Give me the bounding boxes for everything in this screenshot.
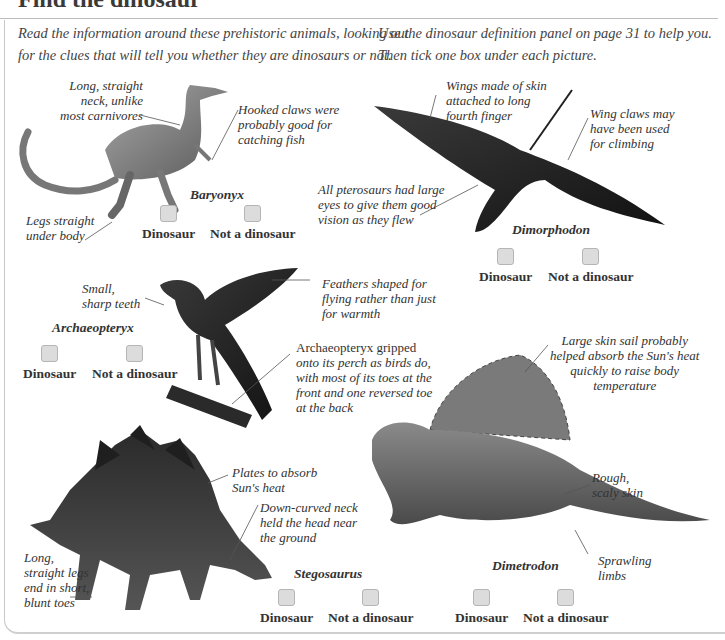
note-line: Small,: [82, 281, 140, 296]
note-line: helped absorb the Sun's heat: [550, 348, 699, 363]
dimorphodon-note-eyes: All pterosaurs had large eyes to give th…: [318, 182, 445, 227]
note-line: temperature: [550, 378, 699, 393]
choice-label: Not a dinosaur: [328, 610, 414, 625]
note-line: Hooked claws were: [238, 102, 339, 117]
note-line: front and one reversed toe: [296, 385, 432, 400]
note-line: neck, unlike: [60, 93, 143, 108]
note-line: at the back: [296, 400, 432, 415]
note-line: vision as they flew: [318, 212, 445, 227]
baryonyx-choice-not-dinosaur[interactable]: Not a dinosaur: [210, 205, 296, 242]
dimorphodon-choice-not-dinosaur[interactable]: Not a dinosaur: [548, 248, 634, 285]
dimetrodon-dinosaur-checkbox[interactable]: [473, 589, 490, 606]
note-line: under body: [26, 228, 94, 243]
note-line: end in short,: [24, 580, 89, 595]
note-line: attached to long: [446, 93, 547, 108]
note-line: flying rather than just: [322, 291, 436, 306]
note-line: Rough,: [592, 470, 643, 485]
choice-label: Dinosaur: [142, 226, 195, 241]
note-line: eyes to give them good: [318, 197, 445, 212]
baryonyx-note-claws: Hooked claws were probably good for catc…: [238, 102, 339, 147]
dimorphodon-note-wings: Wings made of skin attached to long four…: [446, 78, 547, 123]
baryonyx-name: Baryonyx: [190, 187, 244, 203]
dimorphodon-dinosaur-checkbox[interactable]: [497, 248, 514, 265]
note-line: Sun's heat: [232, 480, 317, 495]
note-line: for warmth: [322, 306, 436, 321]
note-line: limbs: [598, 568, 651, 583]
note-line: Sprawling: [598, 553, 651, 568]
stegosaurus-note-neck: Down-curved neck held the head near the …: [260, 500, 358, 545]
note-line: the ground: [260, 530, 358, 545]
note-line: Long, straight: [60, 78, 143, 93]
note-line: Wing claws may: [590, 106, 675, 121]
baryonyx-note-legs: Legs straight under body: [26, 213, 94, 243]
dimorphodon-choice-dinosaur[interactable]: Dinosaur: [479, 248, 532, 285]
choice-label: Not a dinosaur: [548, 269, 634, 284]
choice-label: Dinosaur: [479, 269, 532, 284]
baryonyx-not-dinosaur-checkbox[interactable]: [244, 205, 261, 222]
note-line: quickly to raise body: [550, 363, 699, 378]
note-line: Down-curved neck: [260, 500, 358, 515]
note-line: onto its perch as birds do,: [296, 355, 432, 370]
archaeopteryx-not-dinosaur-checkbox[interactable]: [126, 345, 143, 362]
note-line: with most of its toes at the: [296, 370, 432, 385]
note-line: straight legs: [24, 565, 89, 580]
choice-label: Not a dinosaur: [210, 226, 296, 241]
note-line: Large skin sail probably: [550, 333, 699, 348]
note-line: Long,: [24, 550, 89, 565]
stegosaurus-choice-dinosaur[interactable]: Dinosaur: [260, 589, 313, 626]
choice-label: Not a dinosaur: [523, 610, 609, 625]
dimetrodon-note-skin: Rough, scaly skin: [592, 470, 643, 500]
note-line: most carnivores: [60, 108, 143, 123]
note-line: Feathers shaped for: [322, 276, 436, 291]
stegosaurus-name: Stegosaurus: [294, 566, 362, 582]
choice-label: Dinosaur: [260, 610, 313, 625]
note-line: catching fish: [238, 132, 339, 147]
stegosaurus-not-dinosaur-checkbox[interactable]: [362, 589, 379, 606]
choice-label: Not a dinosaur: [92, 366, 178, 381]
archaeopteryx-note-teeth: Small, sharp teeth: [82, 281, 140, 311]
dimetrodon-choice-dinosaur[interactable]: Dinosaur: [455, 589, 508, 626]
note-line: Wings made of skin: [446, 78, 547, 93]
stegosaurus-note-legs: Long, straight legs end in short, blunt …: [24, 550, 89, 610]
note-line: Legs straight: [26, 213, 94, 228]
baryonyx-dinosaur-checkbox[interactable]: [160, 205, 177, 222]
archaeopteryx-choice-dinosaur[interactable]: Dinosaur: [23, 345, 76, 382]
archaeopteryx-choice-not-dinosaur[interactable]: Not a dinosaur: [92, 345, 178, 382]
choice-label: Dinosaur: [23, 366, 76, 381]
dimetrodon-name: Dimetrodon: [492, 558, 559, 574]
note-line: for climbing: [590, 136, 675, 151]
dimorphodon-not-dinosaur-checkbox[interactable]: [582, 248, 599, 265]
archaeopteryx-name: Archaeopteryx: [52, 320, 134, 336]
note-line: fourth finger: [446, 108, 547, 123]
note-line: probably good for: [238, 117, 339, 132]
note-line: scaly skin: [592, 485, 643, 500]
dimorphodon-name: Dimorphodon: [512, 222, 590, 238]
archaeopteryx-note-perch: Archaeopteryx gripped onto its perch as …: [296, 340, 432, 415]
dimetrodon-note-limbs: Sprawling limbs: [598, 553, 651, 583]
dimorphodon-note-claws: Wing claws may have been used for climbi…: [590, 106, 675, 151]
note-line: Archaeopteryx gripped: [296, 340, 432, 355]
baryonyx-note-neck: Long, straight neck, unlike most carnivo…: [60, 78, 143, 123]
note-line: sharp teeth: [82, 296, 140, 311]
note-line: blunt toes: [24, 595, 89, 610]
stegosaurus-note-plates: Plates to absorb Sun's heat: [232, 465, 317, 495]
baryonyx-choice-dinosaur[interactable]: Dinosaur: [142, 205, 195, 242]
note-line: Plates to absorb: [232, 465, 317, 480]
stegosaurus-choice-not-dinosaur[interactable]: Not a dinosaur: [328, 589, 414, 626]
archaeopteryx-note-feathers: Feathers shaped for flying rather than j…: [322, 276, 436, 321]
dimetrodon-note-sail: Large skin sail probably helped absorb t…: [550, 333, 699, 393]
note-line: held the head near: [260, 515, 358, 530]
dimetrodon-choice-not-dinosaur[interactable]: Not a dinosaur: [523, 589, 609, 626]
archaeopteryx-dinosaur-checkbox[interactable]: [41, 345, 58, 362]
note-line: have been used: [590, 121, 675, 136]
dimetrodon-not-dinosaur-checkbox[interactable]: [557, 589, 574, 606]
choice-label: Dinosaur: [455, 610, 508, 625]
note-line: All pterosaurs had large: [318, 182, 445, 197]
stegosaurus-dinosaur-checkbox[interactable]: [278, 589, 295, 606]
